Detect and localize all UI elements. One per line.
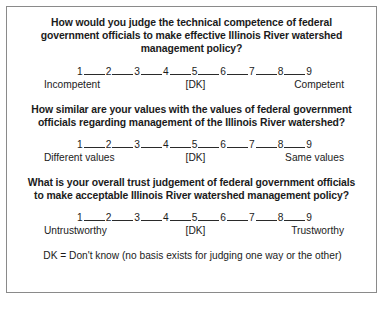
scale-rule	[112, 147, 133, 148]
scale-rule	[112, 74, 133, 75]
dk-footnote: DK = Don't know (no basis exists for jud…	[18, 249, 365, 262]
scale-rule	[141, 74, 162, 75]
scale-rule	[284, 147, 305, 148]
scale-point-8[interactable]: 8	[278, 66, 284, 77]
scale-point-7[interactable]: 7	[249, 212, 255, 223]
anchor-row-1: Incompetent [DK] Competent	[18, 78, 365, 92]
scale-rule	[284, 220, 305, 221]
rating-scale-2[interactable]: 1 2 3 4 5 6 7 8 9	[18, 139, 365, 150]
scale-point-8[interactable]: 8	[278, 212, 284, 223]
scale-rule	[256, 74, 277, 75]
question-heading-3: What is your overall trust judgement of …	[18, 176, 365, 202]
question-heading-1: How would you judge the technical compet…	[18, 16, 365, 56]
anchor-row-2: Different values [DK] Same values	[18, 151, 365, 165]
scale-point-7[interactable]: 7	[249, 139, 255, 150]
scale-point-1[interactable]: 1	[77, 66, 83, 77]
scale-rule	[227, 220, 248, 221]
scale-point-2[interactable]: 2	[106, 66, 112, 77]
question-block-2: How similar are your values with the val…	[18, 103, 365, 165]
scale-rule	[256, 147, 277, 148]
scale-point-1[interactable]: 1	[77, 139, 83, 150]
scale-rule	[112, 220, 133, 221]
anchor-label-high: Competent	[294, 78, 344, 92]
scale-point-2[interactable]: 2	[106, 212, 112, 223]
question-block-3: What is your overall trust judgement of …	[18, 176, 365, 238]
scale-point-3[interactable]: 3	[134, 139, 140, 150]
scale-point-6[interactable]: 6	[220, 66, 226, 77]
scale-point-8[interactable]: 8	[278, 139, 284, 150]
scale-rule	[198, 220, 219, 221]
scale-point-5[interactable]: 5	[192, 139, 198, 150]
scale-rule	[84, 74, 105, 75]
scale-rule	[84, 147, 105, 148]
scale-point-4[interactable]: 4	[163, 66, 169, 77]
scale-point-1[interactable]: 1	[77, 212, 83, 223]
scale-rule	[227, 74, 248, 75]
scale-point-7[interactable]: 7	[249, 66, 255, 77]
scale-point-9[interactable]: 9	[306, 212, 312, 223]
anchor-row-3: Untrustworthy [DK] Trustworthy	[18, 224, 365, 238]
rating-scale-1[interactable]: 1 2 3 4 5 6 7 8 9	[18, 66, 365, 77]
scale-rule	[227, 147, 248, 148]
scale-point-5[interactable]: 5	[192, 66, 198, 77]
scale-rule	[284, 74, 305, 75]
scale-point-2[interactable]: 2	[106, 139, 112, 150]
scale-rule	[170, 74, 191, 75]
scale-point-9[interactable]: 9	[306, 139, 312, 150]
scale-rule	[141, 147, 162, 148]
scale-rule	[84, 220, 105, 221]
scale-point-3[interactable]: 3	[134, 212, 140, 223]
anchor-label-high: Same values	[285, 151, 344, 165]
scale-point-4[interactable]: 4	[163, 139, 169, 150]
survey-card: How would you judge the technical compet…	[6, 6, 377, 293]
scale-rule	[198, 74, 219, 75]
scale-point-6[interactable]: 6	[220, 139, 226, 150]
scale-point-3[interactable]: 3	[134, 66, 140, 77]
scale-point-9[interactable]: 9	[306, 66, 312, 77]
scale-rule	[141, 220, 162, 221]
scale-rule	[170, 147, 191, 148]
rating-scale-3[interactable]: 1 2 3 4 5 6 7 8 9	[18, 212, 365, 223]
scale-rule	[198, 147, 219, 148]
question-heading-2: How similar are your values with the val…	[18, 103, 365, 129]
scale-point-4[interactable]: 4	[163, 212, 169, 223]
scale-rule	[256, 220, 277, 221]
anchor-label-high: Trustworthy	[291, 224, 344, 238]
scale-point-5[interactable]: 5	[192, 212, 198, 223]
scale-rule	[170, 220, 191, 221]
question-block-1: How would you judge the technical compet…	[18, 16, 365, 92]
scale-point-6[interactable]: 6	[220, 212, 226, 223]
